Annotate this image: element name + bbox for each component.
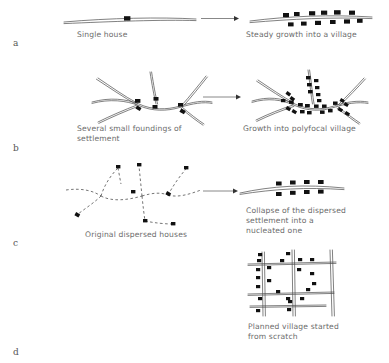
panel-d-after-house-19 (256, 309, 260, 312)
panel-d-after-road-11 (250, 306, 326, 307)
panel-b-before-house-2 (153, 105, 158, 109)
panel-c-arrow-head (233, 189, 238, 194)
panel-c-before-path-1 (101, 196, 142, 200)
panel-b-arrow-head (236, 95, 241, 100)
panel-c-before-path-7 (142, 196, 145, 221)
panel-b-after-house-7 (305, 104, 310, 107)
panel-c-after-house-1 (290, 181, 296, 185)
panel-b-before-house-0 (135, 99, 140, 103)
panel-b-after-house-12 (308, 90, 313, 93)
panel-a-after-house-9 (330, 20, 336, 24)
panel-c-before-house-0 (116, 165, 120, 168)
panel-a-after-house-1 (294, 12, 300, 16)
panel-b-after-house-14 (315, 86, 319, 89)
panel-d-after-house-15 (306, 288, 310, 291)
panel-c-after-group (240, 180, 344, 196)
panel-b-after-house-5 (291, 109, 297, 114)
panel-c-before-path-5 (78, 196, 101, 214)
panel-c-after-house-7 (318, 190, 324, 194)
panel-d-after-house-16 (286, 297, 290, 300)
panel-d-after-road-10 (250, 305, 326, 306)
panel-a-arrow (201, 16, 239, 21)
panel-d-after-house-2 (267, 266, 271, 269)
panel-d-after-house-5 (267, 279, 271, 282)
panel-a-after-house-11 (357, 19, 363, 23)
village-formation-figure: abcd Single houseSteady growth into a vi… (0, 0, 389, 363)
panel-b-before-road-6 (182, 76, 206, 105)
panel-a-before-group (64, 16, 196, 23)
panel-b-after-house-15 (316, 93, 320, 96)
panel-b-after-house-17 (314, 105, 319, 108)
panel-c-after-house-5 (290, 191, 296, 195)
panel-b-after-house-3 (289, 101, 294, 104)
panel-b-after-road-2 (258, 80, 294, 103)
panel-b-after-house-10 (306, 76, 311, 79)
panel-b-after-house-2 (281, 99, 285, 102)
panel-d-after-house-3 (256, 268, 260, 271)
panel-d-after-road-0 (262, 252, 263, 316)
panel-b-after-house-4 (285, 106, 291, 111)
panel-d-after-house-8 (286, 252, 290, 255)
panel-b-before-road-10 (182, 107, 204, 124)
panel-a-after-house-6 (288, 22, 294, 26)
panel-c-before-path-2 (142, 193, 168, 196)
panel-a-after-house-4 (334, 10, 341, 14)
panel-a-after-house-2 (309, 11, 315, 15)
panel-b-after-house-11 (307, 83, 312, 86)
panel-b-after-house-16 (317, 99, 321, 102)
panel-c-before-path-9 (145, 221, 173, 224)
panel-label-d: d (13, 347, 19, 357)
panel-b-after-house-20 (328, 109, 333, 112)
panel-c-before-house-2 (184, 166, 188, 169)
panel-c-before-path-0 (66, 189, 101, 196)
panel-a-after-house-7 (301, 22, 307, 26)
panel-d-after-road-1 (264, 252, 265, 316)
panel-a-after-house-5 (349, 11, 355, 15)
panel-c-before-house-3 (131, 190, 135, 193)
panel-d-after-house-14 (312, 282, 316, 285)
panel-b-before-caption: Several small foundings of settlement (77, 124, 182, 144)
panel-d-after-house-11 (310, 258, 314, 261)
panel-a-arrow-head (234, 16, 239, 21)
panel-b-before-house-3 (154, 97, 159, 101)
panel-d-after-house-1 (257, 259, 261, 262)
panel-d-after-house-21 (288, 300, 292, 303)
panel-d-after-road-3 (294, 250, 295, 316)
panel-b-after-house-6 (298, 103, 303, 106)
panel-d-after-group (248, 250, 336, 316)
panel-d-after-house-20 (287, 308, 291, 311)
panel-b-after-house-24 (337, 107, 343, 112)
panel-d-after-caption: Planned village started from scratch (248, 322, 339, 342)
panel-b-after-house-21 (333, 102, 338, 105)
panel-d-after-house-7 (276, 290, 280, 293)
panel-a-after-house-10 (344, 19, 350, 23)
panel-a-before-house-0 (124, 16, 130, 20)
panel-label-b: b (13, 143, 19, 153)
panel-d-after-house-0 (258, 253, 262, 256)
panel-c-after-house-6 (304, 190, 310, 194)
panel-c-after-caption: Collapse of the dispersed settlement int… (246, 206, 346, 236)
panel-b-after-house-0 (285, 91, 291, 96)
panel-c-before-house-6 (143, 219, 147, 222)
panel-b-after-house-9 (307, 111, 312, 114)
panel-d-after-house-18 (258, 297, 262, 300)
panel-b-before-group (92, 72, 212, 125)
panel-b-before-road-8 (98, 105, 137, 122)
panel-d-after-house-12 (297, 268, 301, 271)
panel-c-after-house-0 (276, 182, 282, 186)
panel-a-after-caption: Steady growth into a village (246, 30, 357, 40)
panel-label-c: c (13, 238, 18, 248)
panel-d-after-road-2 (292, 250, 293, 316)
panel-d-after-house-10 (298, 258, 302, 261)
panel-b-after-caption: Growth into polyfocal village (243, 124, 356, 134)
panel-c-after-house-2 (304, 180, 310, 184)
panel-b-after-house-18 (322, 105, 327, 108)
panel-c-before-house-1 (137, 163, 141, 166)
panel-b-after-house-8 (300, 110, 305, 113)
panel-b-after-house-13 (314, 79, 318, 82)
panel-c-before-path-6 (139, 166, 142, 196)
panel-c-before-path-4 (101, 168, 118, 196)
panel-a-after-house-0 (283, 13, 289, 17)
panel-c-before-group (66, 163, 201, 225)
panel-c-after-house-3 (318, 180, 324, 184)
